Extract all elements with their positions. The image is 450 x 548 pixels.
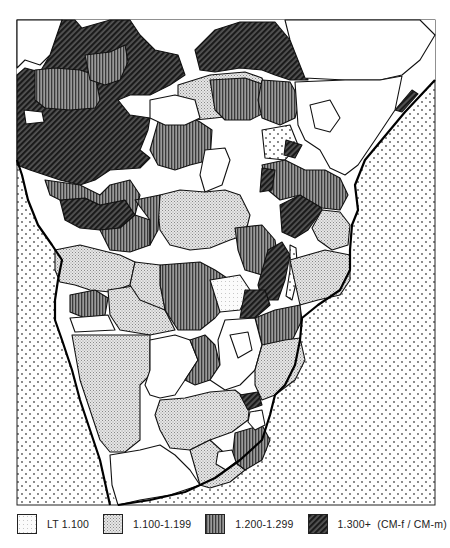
legend-item-1100-1199: 1.100-1.199 <box>103 514 191 534</box>
map-canvas <box>0 0 450 510</box>
legend-item-lt-1100: LT 1.100 <box>17 514 89 534</box>
legend-label: 1.200-1.299 <box>235 518 293 530</box>
legend-item-1300-plus: 1.300+ (CM-f / CM-m) <box>308 514 447 534</box>
legend-item-1200-1299: 1.200-1.299 <box>205 514 293 534</box>
legend-unit-note: (CM-f / CM-m) <box>377 518 447 530</box>
legend-swatch-dense-dots <box>103 514 123 534</box>
legend-label: 1.300+ <box>338 518 372 530</box>
region-tanzania-1300-b <box>260 168 275 192</box>
legend-label: LT 1.100 <box>47 518 89 530</box>
legend-swatch-sparse-dots <box>17 514 37 534</box>
legend-label: 1.100-1.199 <box>133 518 191 530</box>
region-angola-white <box>70 315 115 332</box>
legend-swatch-diagonal-hatch <box>308 514 328 534</box>
choropleth-map <box>0 0 450 510</box>
region-angola-1200 <box>70 290 108 318</box>
region-drc-north-white <box>150 95 200 125</box>
legend-swatch-vertical-lines <box>205 514 225 534</box>
legend: LT 1.100 1.100-1.199 1.200-1.299 1.300+ … <box>17 513 447 535</box>
region-coast-white-2 <box>24 110 44 124</box>
